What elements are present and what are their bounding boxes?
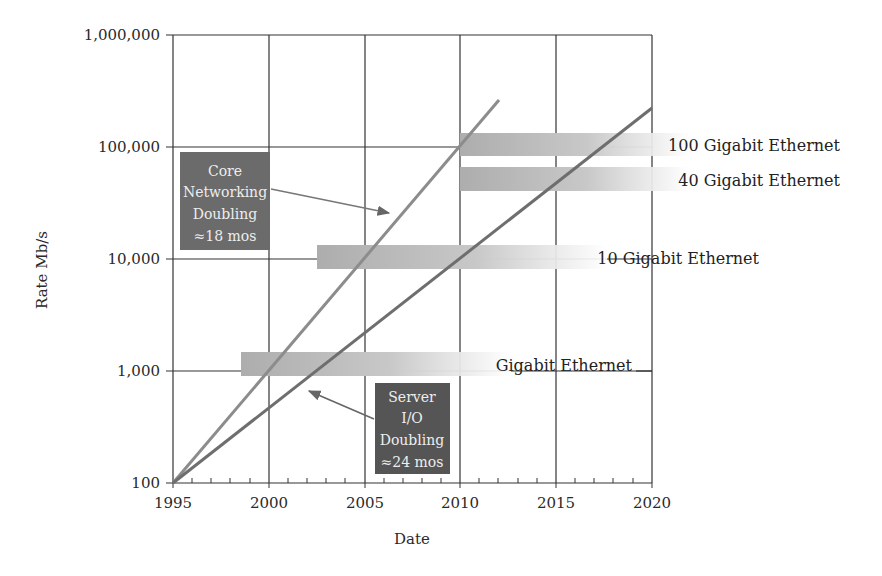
band-40g <box>460 167 690 191</box>
y-tick-1000000: 1,000,000 <box>84 26 160 44</box>
label-100g: 100 Gigabit Ethernet <box>668 136 840 155</box>
server-arrow-icon <box>309 391 374 419</box>
server-annotation-line2: I/O <box>401 410 423 426</box>
x-tick-2010: 2010 <box>441 494 479 512</box>
core-annotation-line4: ≈18 mos <box>194 228 257 244</box>
server-annotation: Server I/O Doubling ≈24 mos <box>309 383 450 474</box>
y-tick-100000: 100,000 <box>98 138 160 156</box>
y-tick-1000: 1,000 <box>117 362 160 380</box>
y-axis-title: Rate Mb/s <box>33 231 51 309</box>
y-tick-100: 100 <box>131 474 160 492</box>
core-annotation-line2: Networking <box>183 184 267 200</box>
server-annotation-line3: Doubling <box>380 432 445 448</box>
label-1g: Gigabit Ethernet <box>496 356 633 375</box>
band-100g <box>460 133 690 156</box>
y-tick-10000: 10,000 <box>108 250 161 268</box>
x-tick-2020: 2020 <box>633 494 671 512</box>
x-tick-1995: 1995 <box>154 494 192 512</box>
core-annotation: Core Networking Doubling ≈18 mos <box>180 152 389 250</box>
core-arrow-icon <box>271 189 389 213</box>
x-tick-2000: 2000 <box>250 494 288 512</box>
core-annotation-line3: Doubling <box>193 206 258 222</box>
x-tick-2005: 2005 <box>346 494 384 512</box>
core-annotation-line1: Core <box>208 163 242 179</box>
y-axis-labels: 1,000,000 100,000 10,000 1,000 100 <box>84 26 160 492</box>
x-axis-labels: 1995 2000 2005 2010 2015 2020 <box>154 494 671 512</box>
x-tick-2015: 2015 <box>537 494 575 512</box>
label-10g: 10 Gigabit Ethernet <box>597 249 759 268</box>
x-axis-title: Date <box>394 530 430 548</box>
server-annotation-line4: ≈24 mos <box>381 454 444 470</box>
growth-chart: 100 Gigabit Ethernet 40 Gigabit Ethernet… <box>0 0 882 576</box>
label-40g: 40 Gigabit Ethernet <box>678 171 840 190</box>
server-annotation-line1: Server <box>388 389 436 405</box>
